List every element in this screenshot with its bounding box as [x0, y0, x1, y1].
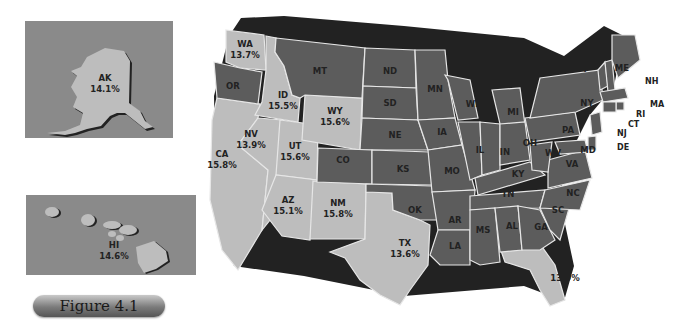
- ky-abbr: KY: [512, 169, 526, 179]
- id-value: 15.5%: [268, 101, 298, 111]
- figure-label: Figure 4.1: [33, 295, 165, 317]
- ca-abbr: CA: [216, 149, 229, 159]
- state-co[interactable]: [317, 148, 372, 184]
- ks-abbr: KS: [397, 164, 410, 174]
- az-abbr: AZ: [282, 195, 295, 205]
- ca-value: 15.8%: [207, 160, 237, 170]
- wy-value: 15.6%: [320, 117, 350, 127]
- mt-abbr: MT: [313, 66, 327, 76]
- ma-abbr: MA: [650, 100, 665, 109]
- de-abbr: DE: [617, 143, 629, 152]
- ut-value: 15.6%: [280, 152, 310, 162]
- ok-abbr: OK: [408, 205, 422, 215]
- ms-abbr: MS: [476, 225, 491, 235]
- va-abbr: VA: [566, 159, 579, 169]
- ut-abbr: UT: [289, 141, 302, 151]
- il-abbr: IL: [476, 145, 485, 155]
- sc-abbr: SC: [552, 205, 564, 215]
- al-abbr: AL: [506, 221, 519, 231]
- nv-abbr: NV: [244, 129, 258, 139]
- vt-abbr: VT: [576, 65, 588, 74]
- nm-value: 15.8%: [323, 209, 353, 219]
- nd-abbr: ND: [383, 66, 397, 76]
- id-abbr: ID: [278, 90, 288, 100]
- me-abbr: ME: [615, 63, 629, 73]
- fl-abbr: FL: [559, 262, 571, 272]
- state-ri[interactable]: [616, 102, 624, 110]
- mn-abbr: MN: [427, 84, 443, 94]
- la-abbr: LA: [449, 241, 461, 251]
- wa-value: 13.7%: [230, 50, 260, 60]
- nj-abbr: NJ: [617, 129, 627, 138]
- mo-abbr: MO: [444, 166, 460, 176]
- ny-abbr: NY: [580, 98, 594, 108]
- us-map: WA 13.7% ID 15.5% WY 15.6% NV 13.9% UT 1…: [0, 0, 686, 322]
- md-abbr: MD: [580, 145, 596, 155]
- ct-abbr: CT: [628, 120, 640, 129]
- state-nj[interactable]: [590, 112, 602, 135]
- tx-abbr: TX: [399, 238, 412, 248]
- nc-abbr: NC: [566, 188, 579, 198]
- oh-abbr: OH: [523, 138, 537, 148]
- ne-abbr: NE: [389, 130, 402, 140]
- ia-abbr: IA: [437, 127, 447, 137]
- tn-abbr: TN: [502, 189, 515, 199]
- ar-abbr: AR: [448, 215, 462, 225]
- wv-abbr: WV: [545, 148, 561, 158]
- state-ct[interactable]: [603, 102, 616, 112]
- nv-value: 13.9%: [236, 140, 266, 150]
- ga-abbr: GA: [534, 222, 548, 232]
- sd-abbr: SD: [383, 98, 396, 108]
- nh-abbr: NH: [645, 77, 658, 86]
- wa-abbr: WA: [237, 39, 253, 49]
- mi-abbr: MI: [507, 107, 519, 117]
- wi-abbr: WI: [466, 99, 479, 109]
- wy-abbr: WY: [327, 106, 343, 116]
- fl-value: 13.9%: [550, 273, 580, 283]
- co-abbr: CO: [336, 155, 349, 165]
- az-value: 15.1%: [273, 206, 303, 216]
- nm-abbr: NM: [330, 198, 346, 208]
- ri-abbr: RI: [636, 110, 645, 119]
- or-abbr: OR: [226, 81, 240, 91]
- in-abbr: IN: [500, 147, 510, 157]
- tx-value: 13.6%: [390, 249, 420, 259]
- pa-abbr: PA: [562, 125, 574, 135]
